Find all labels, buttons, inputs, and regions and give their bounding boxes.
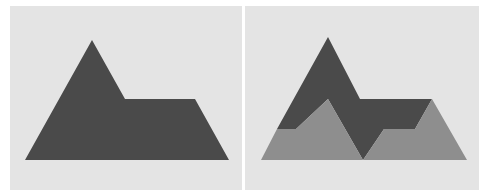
- right-shapes-group: [261, 37, 467, 160]
- shapes-canvas: [0, 0, 485, 194]
- left-shapes-group: [25, 40, 229, 160]
- combined-mountain-shape: [25, 40, 229, 160]
